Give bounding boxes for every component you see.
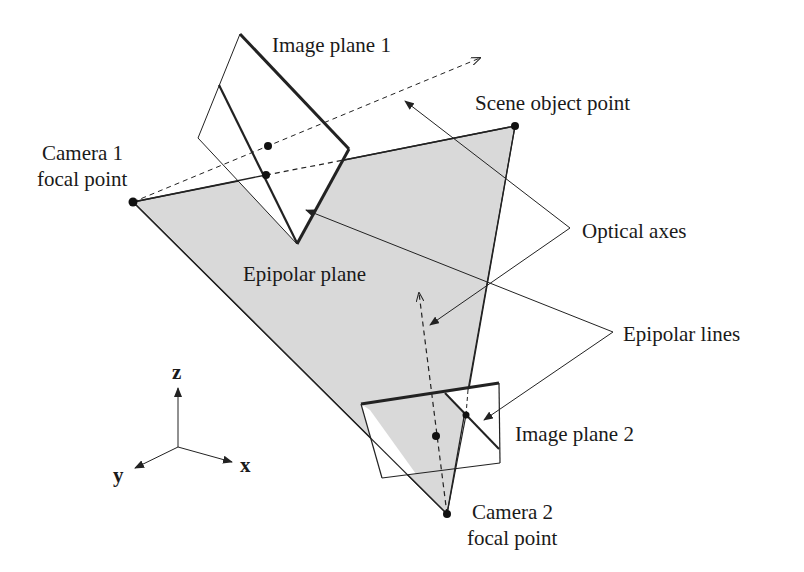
x-axis-label: x — [240, 453, 251, 477]
y-axis-label: y — [113, 463, 124, 487]
scene-object-point — [511, 122, 519, 130]
image-point-2 — [432, 432, 440, 440]
camera-1-focal-point — [129, 198, 138, 207]
scene-object-point-label: Scene object point — [475, 91, 630, 115]
image-plane-1-label: Image plane 1 — [272, 33, 391, 57]
z-axis-label: z — [172, 360, 181, 384]
camera-1-label: Camera 1 — [42, 141, 123, 165]
optical-axes-label: Optical axes — [582, 219, 686, 243]
camera-2-focal-label: focal point — [467, 526, 558, 550]
image-point-1 — [264, 142, 272, 150]
epipolar-plane-label: Epipolar plane — [243, 262, 366, 286]
epipole-point-2 — [463, 412, 470, 419]
image-plane-2-label: Image plane 2 — [515, 422, 634, 446]
epipolar-diagram: z y x Image plane 1 Scene object point C… — [0, 0, 804, 572]
camera-2-label: Camera 2 — [472, 500, 553, 524]
epipolar-lines-label: Epipolar lines — [623, 322, 740, 346]
camera-1-focal-label: focal point — [37, 167, 128, 191]
x-axis — [178, 447, 232, 462]
y-axis — [135, 447, 178, 468]
camera-2-focal-point — [443, 510, 451, 518]
coordinate-axes: z y x — [113, 360, 251, 487]
epipole-point-1 — [262, 171, 270, 179]
